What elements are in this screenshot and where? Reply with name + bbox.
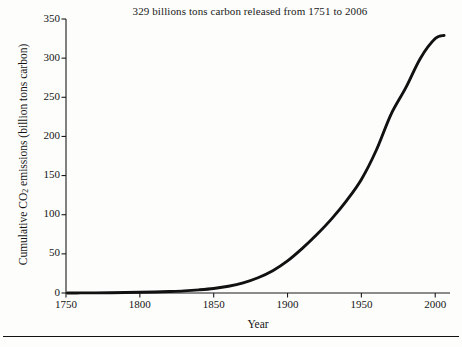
- x-tick-label-1750: 1750: [42, 298, 90, 310]
- y-tick-label-350: 350: [26, 12, 60, 24]
- y-tick-label-150: 150: [26, 168, 60, 180]
- plot-area: [0, 0, 462, 347]
- y-tick-label-200: 200: [26, 129, 60, 141]
- y-tick-label-250: 250: [26, 90, 60, 102]
- footer-divider: [3, 336, 459, 337]
- data-series: [67, 35, 444, 293]
- y-tick-label-0: 0: [26, 286, 60, 298]
- axes: [62, 19, 451, 298]
- x-tick-label-1950: 1950: [337, 298, 385, 310]
- x-tick-label-1850: 1850: [190, 298, 238, 310]
- y-tick-label-50: 50: [26, 246, 60, 258]
- x-tick-label-1900: 1900: [264, 298, 312, 310]
- x-tick-label-1800: 1800: [116, 298, 164, 310]
- figure-container: 329 billions tons carbon released from 1…: [0, 0, 462, 347]
- y-tick-label-100: 100: [26, 207, 60, 219]
- x-tick-label-2000: 2000: [411, 298, 459, 310]
- y-tick-label-300: 300: [26, 51, 60, 63]
- cumulative-emissions-line: [67, 35, 444, 293]
